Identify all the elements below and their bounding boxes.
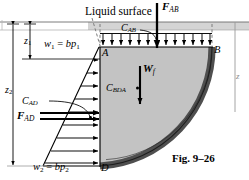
- pressure-prism-ad-outline: [43, 47, 100, 166]
- w1-p-subscript: 1: [76, 43, 80, 51]
- centroid-ad-symbol: C: [22, 95, 29, 106]
- dimension-z2-label: z2: [5, 85, 12, 96]
- centroid-ad-label: CAD: [22, 96, 38, 107]
- dimension-z2-subscript: 2: [9, 88, 12, 95]
- centroid-ab-label: CAB: [121, 23, 136, 34]
- point-a-label: A: [102, 48, 108, 59]
- centroid-bda-symbol: C: [106, 82, 113, 93]
- figure-9-26: Liquid surface FAB CAB A B D Wf CBDA CAD…: [0, 0, 249, 180]
- centroid-ab-subscript: AB: [128, 26, 136, 33]
- weight-label: Wf: [143, 63, 155, 75]
- pressure-ad-arrows: [45, 60, 98, 163]
- weight-symbol: W: [143, 62, 153, 74]
- force-ab-subscript: AB: [169, 5, 178, 14]
- w2-symbol: w: [33, 161, 40, 172]
- centroid-ad-subscript: AD: [29, 99, 38, 106]
- w1-symbol: w: [44, 38, 51, 49]
- weight-subscript: f: [153, 67, 155, 76]
- w1-equals: =: [55, 38, 66, 49]
- dimension-z1-label: z1: [24, 36, 31, 47]
- point-b-label: B: [214, 45, 220, 56]
- w2-equals: =: [44, 161, 55, 172]
- centroid-bda-dot: [136, 87, 139, 90]
- point-d-label: D: [101, 163, 109, 174]
- dimension-z1-subscript: 1: [28, 39, 31, 46]
- centroid-bda-subscript: BDA: [113, 86, 126, 93]
- w2-p-subscript: 2: [65, 166, 69, 174]
- centroid-ad-leader: [49, 101, 92, 119]
- force-ad-subscript: AD: [24, 114, 34, 123]
- w2-expression: w2 = bp2: [33, 162, 69, 174]
- figure-caption: Fig. 9–26: [172, 153, 215, 164]
- centroid-bda-label: CBDA: [106, 83, 126, 94]
- force-ad-label: FAD: [17, 110, 34, 122]
- w1-expression: w1 = bp1: [44, 39, 80, 51]
- liquid-surface-label: Liquid surface: [85, 6, 152, 18]
- force-ab-label: FAB: [162, 1, 178, 13]
- right-edge-partial-label: z: [236, 72, 240, 81]
- centroid-ab-symbol: C: [121, 22, 128, 33]
